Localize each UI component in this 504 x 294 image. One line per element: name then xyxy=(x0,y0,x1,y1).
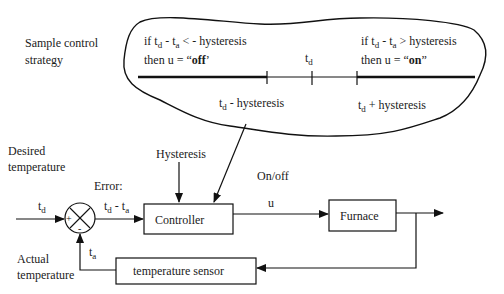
rule-on-action: then u = “on” xyxy=(361,53,427,67)
actual-label-line2: temperature xyxy=(17,268,74,282)
td-input-label: td xyxy=(38,199,46,215)
u-label: u xyxy=(268,196,274,210)
rule-off-condition: if td - ta < - hysteresis xyxy=(144,34,247,50)
axis-upper-label: td + hysteresis xyxy=(358,98,426,114)
desired-label-line2: temperature xyxy=(8,160,65,174)
rule-off-action: then u = “off’ xyxy=(144,53,210,67)
rule-on-condition: if td - ta > hysteresis xyxy=(361,34,457,50)
error-label: Error: xyxy=(94,179,123,193)
ta-feedback-label: ta xyxy=(89,245,96,261)
onoff-label: On/off xyxy=(257,169,289,183)
strategy-to-controller-arrow xyxy=(214,124,246,202)
hysteresis-input-label: Hysteresis xyxy=(156,147,206,161)
actual-label-line1: Actual xyxy=(17,252,50,266)
controller-label: Controller xyxy=(155,213,204,227)
axis-lower-label: td - hysteresis xyxy=(219,96,284,112)
minus-sign: - xyxy=(78,223,81,234)
desired-label-line1: Desired xyxy=(8,144,45,158)
furnace-label: Furnace xyxy=(340,209,379,223)
sensor-to-junction-arrow xyxy=(80,234,116,270)
summing-junction: + - xyxy=(65,203,95,234)
plus-sign: + xyxy=(66,213,72,224)
error-signal-label: td - ta xyxy=(104,199,129,215)
control-diagram: Sample control strategy if td - ta < - h… xyxy=(0,0,504,294)
temperature-sensor-label: temperature sensor xyxy=(133,264,224,278)
strategy-label-line1: Sample control xyxy=(25,36,99,50)
strategy-label-line2: strategy xyxy=(25,53,63,67)
axis-td-label: td xyxy=(305,51,313,67)
